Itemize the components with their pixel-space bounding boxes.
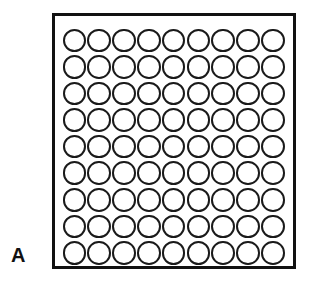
well-cell: [161, 160, 186, 187]
well-circle: [162, 108, 186, 132]
well-cell: [186, 107, 211, 134]
well-circle: [87, 29, 111, 53]
well-cell: [211, 160, 236, 187]
well-cell: [236, 187, 261, 214]
well-cell: [136, 133, 161, 160]
well-cell: [161, 187, 186, 214]
well-cell: [161, 213, 186, 240]
well-circle: [162, 241, 186, 265]
well-circle: [112, 215, 136, 239]
well-circle: [211, 161, 235, 185]
well-cell: [260, 160, 285, 187]
well-cell: [112, 27, 137, 54]
well-circle: [187, 108, 211, 132]
well-circle: [261, 135, 285, 159]
well-cell: [186, 213, 211, 240]
well-circle: [63, 108, 87, 132]
well-cell: [186, 133, 211, 160]
well-circle: [63, 161, 87, 185]
well-circle: [137, 108, 161, 132]
well-cell: [87, 240, 112, 267]
well-cell: [136, 213, 161, 240]
well-circle: [236, 188, 260, 212]
well-cell: [161, 107, 186, 134]
well-circle: [187, 29, 211, 53]
well-cell: [87, 27, 112, 54]
well-circle: [261, 82, 285, 106]
well-circle: [211, 29, 235, 53]
well-cell: [161, 54, 186, 81]
well-cell: [62, 133, 87, 160]
well-cell: [211, 213, 236, 240]
well-cell: [260, 240, 285, 267]
well-cell: [87, 133, 112, 160]
well-circle: [162, 135, 186, 159]
well-circle: [211, 135, 235, 159]
well-circle: [112, 135, 136, 159]
well-cell: [161, 133, 186, 160]
well-cell: [260, 27, 285, 54]
well-cell: [186, 27, 211, 54]
well-circle: [187, 161, 211, 185]
well-circle: [236, 108, 260, 132]
well-circle: [187, 135, 211, 159]
well-circle: [261, 29, 285, 53]
well-circle: [261, 108, 285, 132]
well-cell: [260, 107, 285, 134]
well-circle: [211, 241, 235, 265]
well-cell: [62, 187, 87, 214]
well-cell: [186, 160, 211, 187]
well-circle: [63, 188, 87, 212]
well-cell: [87, 213, 112, 240]
well-cell: [136, 187, 161, 214]
well-circle: [236, 215, 260, 239]
well-cell: [186, 240, 211, 267]
well-circle: [63, 241, 87, 265]
panel-label: A: [11, 245, 25, 265]
well-circle: [261, 161, 285, 185]
well-circle: [162, 188, 186, 212]
figure-panel-a: A: [0, 0, 313, 292]
well-cell: [112, 187, 137, 214]
well-circle: [187, 241, 211, 265]
well-cell: [260, 54, 285, 81]
well-circle: [87, 135, 111, 159]
well-circle: [236, 241, 260, 265]
well-circle: [137, 82, 161, 106]
well-cell: [260, 213, 285, 240]
well-circle: [236, 82, 260, 106]
well-circle: [112, 188, 136, 212]
well-cell: [62, 240, 87, 267]
plate-frame: [52, 13, 296, 269]
well-cell: [136, 240, 161, 267]
well-cell: [186, 80, 211, 107]
well-cell: [260, 133, 285, 160]
well-cell: [236, 80, 261, 107]
well-cell: [161, 27, 186, 54]
well-cell: [211, 133, 236, 160]
well-cell: [62, 27, 87, 54]
well-circle: [211, 188, 235, 212]
well-circle: [211, 82, 235, 106]
well-cell: [62, 213, 87, 240]
well-circle: [261, 188, 285, 212]
well-cell: [211, 107, 236, 134]
well-circle: [187, 82, 211, 106]
well-cell: [87, 54, 112, 81]
well-circle: [87, 241, 111, 265]
well-circle: [187, 188, 211, 212]
well-circle: [112, 82, 136, 106]
well-cell: [87, 160, 112, 187]
well-circle: [162, 161, 186, 185]
well-cell: [87, 107, 112, 134]
well-cell: [236, 54, 261, 81]
well-circle: [137, 215, 161, 239]
well-cell: [161, 240, 186, 267]
well-circle: [261, 215, 285, 239]
well-circle: [112, 29, 136, 53]
well-cell: [136, 27, 161, 54]
well-circle: [187, 215, 211, 239]
well-cell: [112, 54, 137, 81]
well-cell: [136, 160, 161, 187]
well-circle: [137, 135, 161, 159]
